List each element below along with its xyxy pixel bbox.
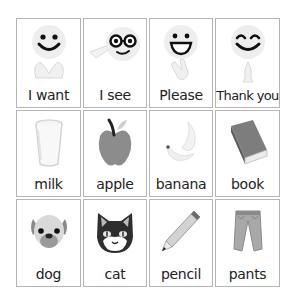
card-label: I see [99,87,131,107]
banana-icon [158,116,204,172]
card-label: I want [28,87,69,107]
card-please[interactable]: Please [149,18,213,108]
happy-face-praying-hands-icon [223,22,273,84]
card-cat[interactable]: cat [83,199,147,287]
card-thank-you[interactable]: Thank you [215,18,280,108]
smiley-with-glasses-pointing-icon [86,22,144,84]
pencil-icon [158,207,204,259]
glass-of-milk-icon [29,116,69,172]
communication-board: I want I see [16,18,280,287]
card-milk[interactable]: milk [16,110,81,197]
card-label: dog [36,266,61,286]
card-i-want[interactable]: I want [16,18,81,108]
apple-icon [95,116,135,172]
grinning-face-waving-hand-icon [156,22,206,84]
card-label: cat [105,266,126,286]
card-dog[interactable]: dog [16,199,81,287]
card-pants[interactable]: pants [215,199,280,287]
card-label: apple [96,176,133,196]
card-label: milk [34,176,62,196]
cat-face-icon [93,207,137,259]
card-apple[interactable]: apple [83,110,147,197]
card-label: banana [156,176,207,196]
pants-icon [228,207,268,259]
smiley-with-hands-icon [24,22,74,84]
card-label: Please [159,87,203,107]
card-book[interactable]: book [215,110,280,197]
card-label: book [231,176,264,196]
card-banana[interactable]: banana [149,110,213,197]
card-label: pants [229,266,267,286]
card-i-see[interactable]: I see [83,18,147,108]
dog-face-icon [27,207,71,259]
book-icon [225,116,271,172]
card-label: Thank you [216,87,279,107]
card-label: pencil [161,266,201,286]
card-pencil[interactable]: pencil [149,199,213,287]
